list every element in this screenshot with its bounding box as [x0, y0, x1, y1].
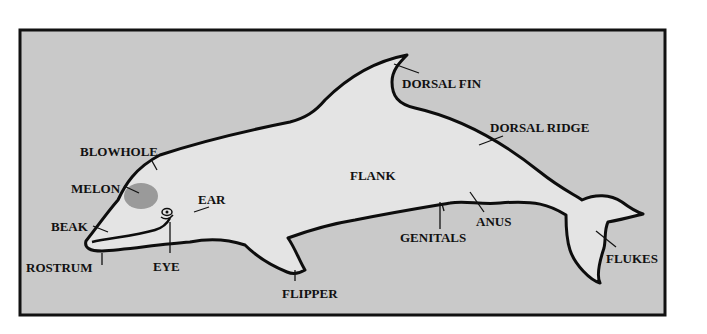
label-genitals: GENITALS	[400, 230, 466, 245]
melon-patch	[124, 183, 158, 209]
label-dorsal-fin: DORSAL FIN	[402, 76, 482, 91]
label-beak: BEAK	[51, 219, 89, 234]
label-dorsal-ridge: DORSAL RIDGE	[490, 120, 589, 135]
label-flukes: FLUKES	[606, 251, 658, 266]
label-flipper: FLIPPER	[282, 286, 338, 301]
dolphin-anatomy-diagram: BLOWHOLE MELON BEAK ROSTRUM EYE EAR FLIP…	[0, 0, 707, 334]
label-rostrum: ROSTRUM	[26, 260, 92, 275]
label-anus: ANUS	[476, 214, 511, 229]
label-flank: FLANK	[350, 168, 396, 183]
label-eye: EYE	[153, 259, 180, 274]
label-melon: MELON	[71, 181, 121, 196]
label-blowhole: BLOWHOLE	[80, 144, 158, 159]
label-ear: EAR	[198, 192, 226, 207]
